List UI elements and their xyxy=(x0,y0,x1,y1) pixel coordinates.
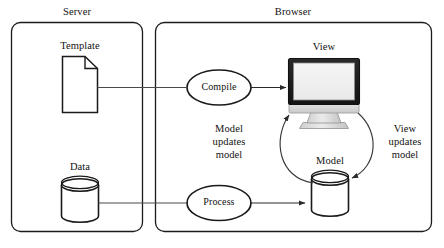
template-document-icon xyxy=(63,57,98,113)
node-label-model: Model xyxy=(295,155,365,167)
container-label-browser: Browser xyxy=(258,6,328,18)
data-database-cylinder-icon xyxy=(62,176,99,222)
edge-view-updates-model xyxy=(352,113,373,178)
diagram-canvas: Server Browser Template Data View Model … xyxy=(0,0,444,248)
view-desktop-monitor-icon xyxy=(289,59,360,129)
edge-label-model-updates-view: Model updates model xyxy=(198,123,260,161)
edge-label-view-updates-model: View updates model xyxy=(378,123,432,161)
model-database-cylinder-icon xyxy=(312,170,349,216)
process-label-compile: Compile xyxy=(189,81,249,93)
container-label-server: Server xyxy=(42,6,112,18)
node-label-data: Data xyxy=(45,161,115,173)
node-label-template: Template xyxy=(45,40,115,52)
process-label-process: Process xyxy=(189,196,249,208)
node-label-view: View xyxy=(289,41,359,53)
